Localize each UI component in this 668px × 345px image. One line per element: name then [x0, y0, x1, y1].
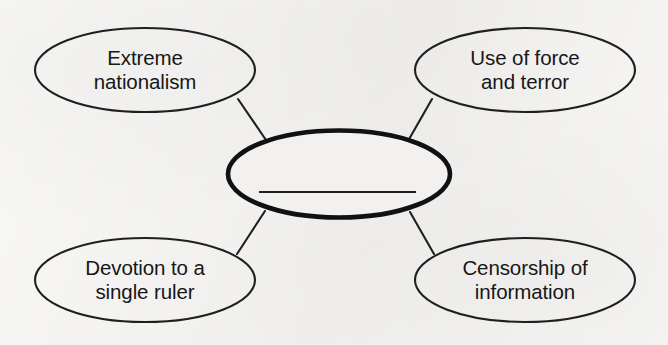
connector-censorship-to-center — [410, 212, 434, 254]
connector-extreme-nationalism-to-center — [238, 99, 268, 143]
concept-web-diagram: Extreme nationalism Use of force and ter… — [0, 0, 668, 345]
diagram-canvas — [0, 0, 668, 345]
center-ellipse[interactable] — [228, 131, 450, 218]
connector-use-of-force-to-center — [408, 99, 432, 141]
connector-devotion-to-center — [237, 211, 265, 254]
node-ellipse-extreme-nationalism[interactable] — [35, 28, 255, 112]
node-ellipse-devotion-to-a-single-ruler[interactable] — [35, 238, 255, 322]
node-ellipse-use-of-force-and-terror[interactable] — [415, 28, 635, 112]
node-ellipse-censorship-of-information[interactable] — [415, 238, 635, 322]
